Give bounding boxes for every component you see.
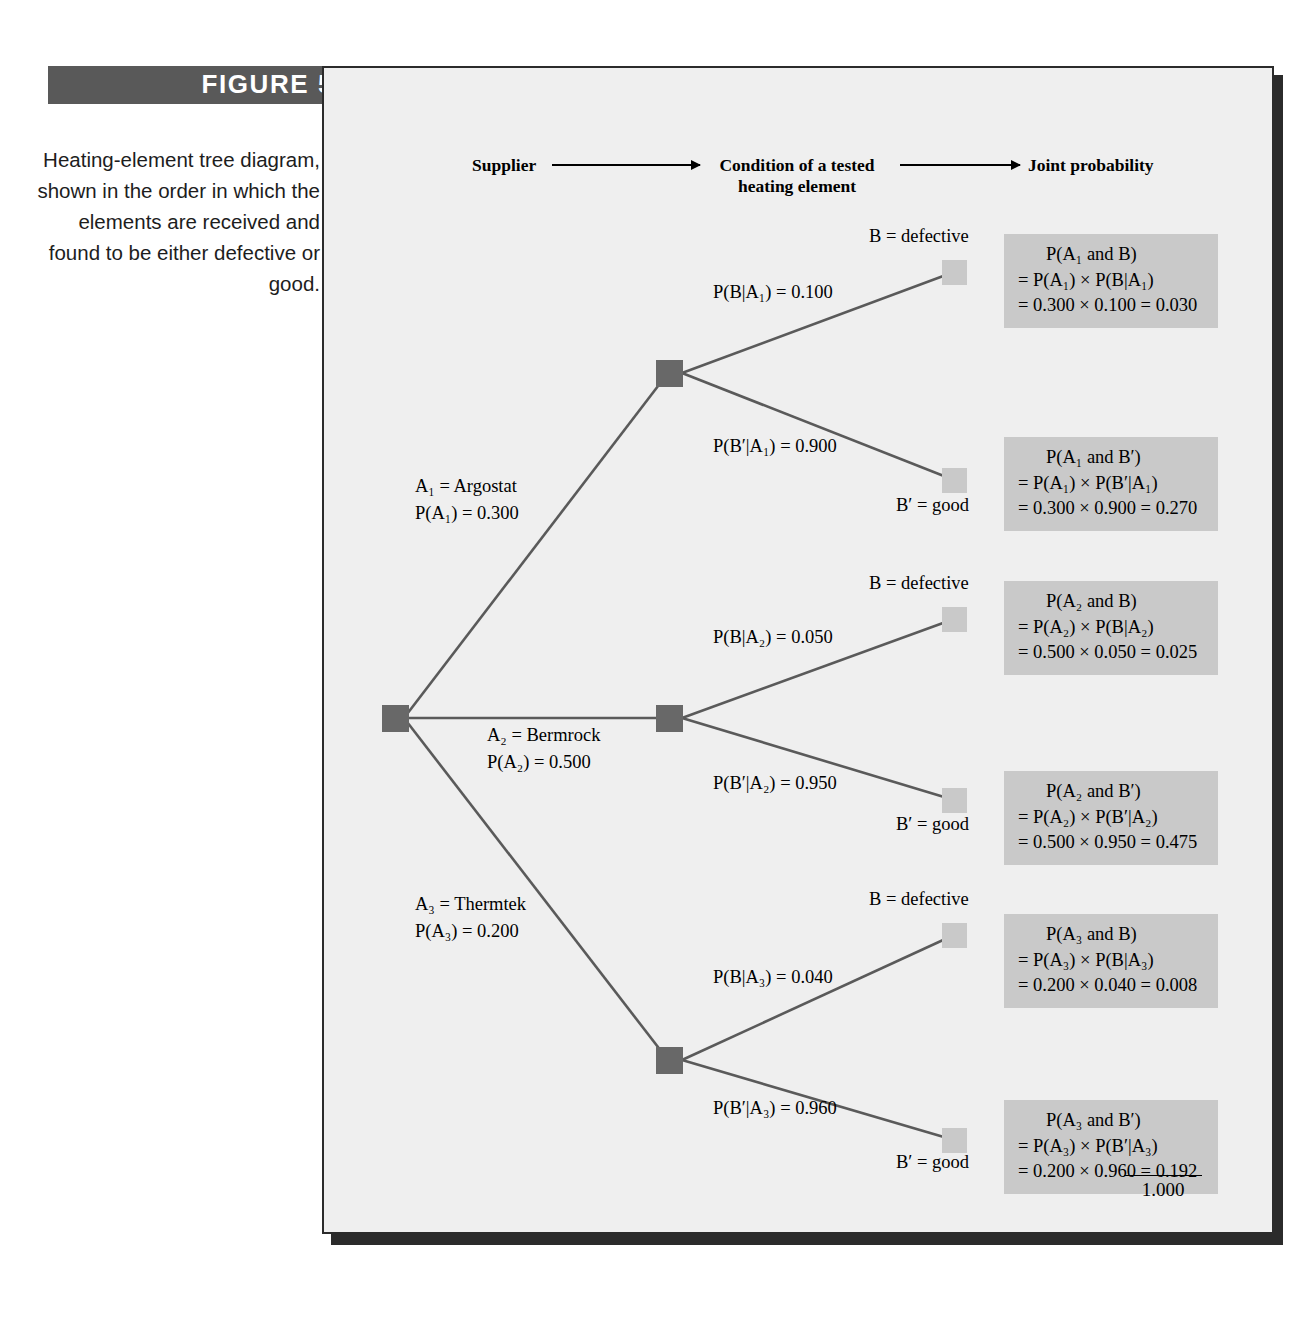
leaf-a2-bprime (942, 788, 967, 813)
cond-label-a3-b: P(B|A₃) = 0.040 (713, 965, 833, 990)
joint-box-a2-bprime-line1: P(A₂ and B′) (1018, 779, 1204, 805)
branch-label-a1-line2: P(A₁) = 0.300 (415, 500, 519, 527)
joint-box-a2-bprime-line2: = P(A₂) × P(B′|A₂) (1018, 805, 1204, 831)
joint-box-a1-bprime: P(A₁ and B′) = P(A₁) × P(B′|A₁) = 0.300 … (1004, 437, 1218, 531)
panel-shadow-right (1274, 75, 1283, 1245)
column-header-condition-line2: heating element (707, 176, 887, 197)
cond-label-a2-b: P(B|A₂) = 0.050 (713, 625, 833, 650)
branch-label-a2-line1: A₂ = Bermrock (487, 722, 600, 749)
joint-box-a1-bprime-line2: = P(A₁) × P(B′|A₁) (1018, 471, 1204, 497)
branch-label-a2: A₂ = Bermrock P(A₂) = 0.500 (487, 722, 600, 776)
joint-box-a2-bprime: P(A₂ and B′) = P(A₂) × P(B′|A₂) = 0.500 … (1004, 771, 1218, 865)
outcome-label-a3-bprime: B′ = good (896, 1150, 969, 1175)
outcome-label-a2-b: B = defective (869, 571, 969, 596)
joint-box-a2-bprime-line3: = 0.500 × 0.950 = 0.475 (1018, 830, 1204, 856)
joint-box-a2-b: P(A₂ and B) = P(A₂) × P(B|A₂) = 0.500 × … (1004, 581, 1218, 675)
joint-box-a2-b-line2: = P(A₂) × P(B|A₂) (1018, 615, 1204, 641)
branch-label-a3: A₃ = Thermtek P(A₃) = 0.200 (415, 891, 526, 945)
joint-box-a1-b-line3: = 0.300 × 0.100 = 0.030 (1018, 293, 1204, 319)
joint-box-a1-bprime-line3: = 0.300 × 0.900 = 0.270 (1018, 496, 1204, 522)
branch-label-a3-line1: A₃ = Thermtek (415, 891, 526, 918)
outcome-label-a2-bprime: B′ = good (896, 812, 969, 837)
node-a1 (656, 360, 683, 387)
joint-box-a1-bprime-line1: P(A₁ and B′) (1018, 445, 1204, 471)
panel-shadow-bottom (331, 1234, 1283, 1245)
joint-box-a1-b: P(A₁ and B) = P(A₁) × P(B|A₁) = 0.300 × … (1004, 234, 1218, 328)
joint-box-a3-b-line1: P(A₃ and B) (1018, 922, 1204, 948)
total-probability: 1.000 (1124, 1175, 1202, 1201)
branch-label-a1-line1: A₁ = Argostat (415, 473, 519, 500)
joint-box-a2-b-line1: P(A₂ and B) (1018, 589, 1204, 615)
arrow-supplier-to-condition-icon (552, 164, 700, 166)
node-a3 (656, 1047, 683, 1074)
cond-label-a3-bprime: P(B′|A₃) = 0.960 (713, 1096, 837, 1121)
leaf-a2-b (942, 607, 967, 632)
column-header-condition-line1: Condition of a tested (707, 155, 887, 176)
column-header-condition: Condition of a tested heating element (707, 155, 887, 197)
branch-label-a2-line2: P(A₂) = 0.500 (487, 749, 600, 776)
leaf-a3-b (942, 923, 967, 948)
figure-caption: Heating-element tree diagram, shown in t… (30, 144, 320, 299)
joint-box-a3-b: P(A₃ and B) = P(A₃) × P(B|A₃) = 0.200 × … (1004, 914, 1218, 1008)
joint-box-a3-bprime-line1: P(A₃ and B′) (1018, 1108, 1204, 1134)
root-node (382, 705, 409, 732)
joint-box-a3-b-line3: = 0.200 × 0.040 = 0.008 (1018, 973, 1204, 999)
node-a2 (656, 705, 683, 732)
outcome-label-a1-bprime: B′ = good (896, 493, 969, 518)
leaf-a1-bprime (942, 468, 967, 493)
outcome-label-a1-b: B = defective (869, 224, 969, 249)
joint-box-a2-b-line3: = 0.500 × 0.050 = 0.025 (1018, 640, 1204, 666)
outcome-label-a3-b: B = defective (869, 887, 969, 912)
cond-label-a2-bprime: P(B′|A₂) = 0.950 (713, 771, 837, 796)
joint-box-a3-bprime-line2: = P(A₃) × P(B′|A₃) (1018, 1134, 1204, 1160)
branch-label-a1: A₁ = Argostat P(A₁) = 0.300 (415, 473, 519, 527)
branch-label-a3-line2: P(A₃) = 0.200 (415, 918, 526, 945)
leaf-a1-b (942, 260, 967, 285)
joint-box-a1-b-line1: P(A₁ and B) (1018, 242, 1204, 268)
cond-label-a1-bprime: P(B′|A₁) = 0.900 (713, 434, 837, 459)
joint-box-a3-b-line2: = P(A₃) × P(B|A₃) (1018, 948, 1204, 974)
cond-label-a1-b: P(B|A₁) = 0.100 (713, 280, 833, 305)
joint-box-a1-b-line2: = P(A₁) × P(B|A₁) (1018, 268, 1204, 294)
column-header-supplier: Supplier (472, 155, 536, 176)
column-header-joint-probability: Joint probability (1028, 155, 1154, 176)
arrow-condition-to-joint-icon (900, 164, 1020, 166)
